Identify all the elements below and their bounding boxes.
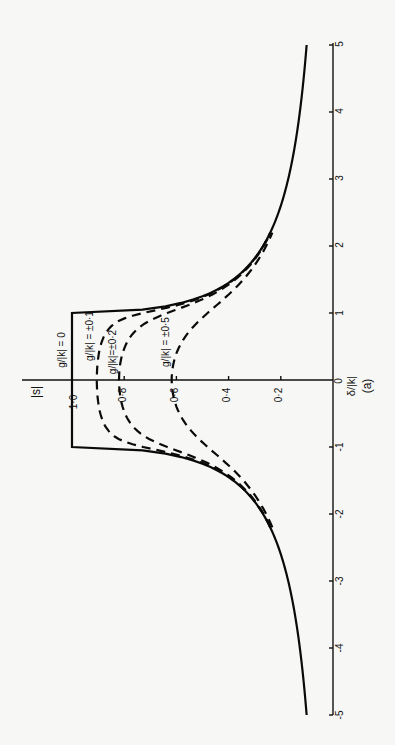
y-tick-label: 0·2 bbox=[273, 387, 284, 402]
x-tick-label: 5 bbox=[334, 41, 345, 47]
y-tick-label: 1·0 bbox=[68, 394, 79, 409]
y-tick-label: 0·4 bbox=[221, 387, 232, 402]
x-tick-label: -3 bbox=[334, 576, 345, 585]
x-tick-label: 4 bbox=[334, 108, 345, 114]
y-axis-title: |s| bbox=[29, 386, 43, 398]
x-tick-label: -4 bbox=[334, 643, 345, 652]
axes bbox=[22, 43, 333, 715]
rotated-line-chart: 1·0 0·8 0·6 0·4 0·2 0 1 2 3 4 5 -1 -2 -3… bbox=[0, 0, 395, 745]
x-tick-label: 3 bbox=[334, 175, 345, 181]
x-tick-label: 1 bbox=[334, 310, 345, 316]
axis-titles: |s| δ/|k| (a) bbox=[29, 376, 374, 398]
curve-label-g0: g/|k| = 0 bbox=[56, 332, 67, 368]
curve-label-g05: g/|k| = ±0·5 bbox=[160, 317, 171, 367]
y-tick-label: 0·6 bbox=[169, 387, 180, 402]
x-tick-label: -5 bbox=[334, 710, 345, 719]
panel-label: (a) bbox=[360, 379, 374, 394]
curve-label-g01: g/|k| = ±0·1 bbox=[84, 311, 95, 361]
y-tick-label: 0·8 bbox=[117, 387, 128, 402]
x-tick-label: -1 bbox=[334, 442, 345, 451]
x-axis-title: δ/|k| bbox=[345, 376, 357, 396]
x-tick-label: -2 bbox=[334, 509, 345, 518]
chart-canvas: 1·0 0·8 0·6 0·4 0·2 0 1 2 3 4 5 -1 -2 -3… bbox=[0, 0, 395, 745]
curve-labels: g/|k| = 0 g/|k| = ±0·1 g/|k|=±0·2 g/|k| … bbox=[56, 311, 171, 375]
x-tick-label: 2 bbox=[334, 242, 345, 248]
y-tick-label-zero: 0 bbox=[333, 378, 344, 384]
curve-label-g02: g/|k|=±0·2 bbox=[107, 329, 118, 374]
